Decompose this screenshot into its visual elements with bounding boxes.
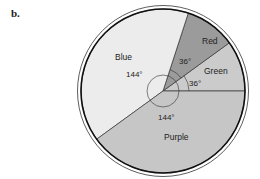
angle-label-red: 36° xyxy=(179,57,191,66)
label-blue: Blue xyxy=(115,52,132,62)
pie-chart: Red Green Blue Purple 36° 36° 144° 144° xyxy=(0,0,260,179)
label-green: Green xyxy=(204,66,228,76)
label-purple: Purple xyxy=(164,132,189,142)
angle-label-purple: 144° xyxy=(158,113,175,122)
angle-label-blue: 144° xyxy=(126,70,143,79)
angle-label-green: 36° xyxy=(189,79,201,88)
label-red: Red xyxy=(202,36,218,46)
